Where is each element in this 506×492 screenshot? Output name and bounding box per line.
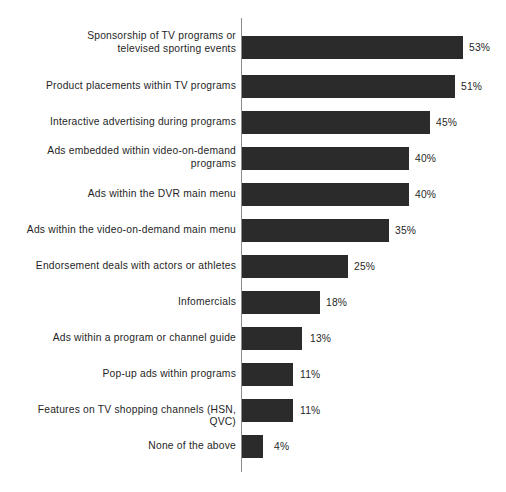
category-label: Ads within the video-on-demand main menu <box>11 224 236 236</box>
value-label: 45% <box>436 111 457 134</box>
category-label: Interactive advertising during programs <box>11 116 236 128</box>
category-label: Ads embedded within video-on-demand prog… <box>11 145 236 170</box>
bar-row: Infomercials 18% <box>0 291 506 327</box>
value-label: 11% <box>300 363 320 386</box>
bar[interactable] <box>242 435 263 458</box>
category-label: Ads within the DVR main menu <box>11 188 236 200</box>
value-label: 53% <box>469 36 490 59</box>
category-label: Sponsorship of TV programs or televised … <box>11 30 236 55</box>
bar[interactable] <box>242 36 463 59</box>
bar-row: None of the above 4% <box>0 435 506 471</box>
bar[interactable] <box>242 219 389 242</box>
category-label: Features on TV shopping channels (HSN, Q… <box>11 404 236 429</box>
value-label: 11% <box>300 399 320 422</box>
bar[interactable] <box>242 255 348 278</box>
value-label: 40% <box>415 183 436 206</box>
bar[interactable] <box>242 399 293 422</box>
bar-row: Ads within the video-on-demand main menu… <box>0 219 506 255</box>
value-label: 40% <box>415 147 436 170</box>
plot-area: Sponsorship of TV programs or televised … <box>0 0 506 492</box>
bar[interactable] <box>242 75 455 98</box>
bar[interactable] <box>242 111 430 134</box>
category-label: None of the above <box>11 440 236 452</box>
bar-row: Ads within the DVR main menu 40% <box>0 183 506 219</box>
value-label: 25% <box>354 255 375 278</box>
value-label: 13% <box>310 327 331 350</box>
bar-row: Sponsorship of TV programs or televised … <box>0 30 506 66</box>
bar[interactable] <box>242 327 302 350</box>
bar-row: Endorsement deals with actors or athlete… <box>0 255 506 291</box>
value-label: 18% <box>326 291 347 314</box>
bar[interactable] <box>242 183 409 206</box>
bar[interactable] <box>242 147 409 170</box>
bar-row: Pop-up ads within programs 11% <box>0 363 506 399</box>
bar[interactable] <box>242 363 293 386</box>
bar-row: Features on TV shopping channels (HSN, Q… <box>0 399 506 435</box>
horizontal-bar-chart: Sponsorship of TV programs or televised … <box>0 0 506 492</box>
bar-row: Product placements within TV programs 51… <box>0 75 506 111</box>
category-label: Pop-up ads within programs <box>11 368 236 380</box>
value-label: 51% <box>461 75 482 98</box>
category-label: Infomercials <box>11 296 236 308</box>
category-label: Endorsement deals with actors or athlete… <box>11 260 236 272</box>
bar-row: Ads within a program or channel guide 13… <box>0 327 506 363</box>
bar[interactable] <box>242 291 320 314</box>
value-label: 4% <box>274 435 289 458</box>
bar-row: Ads embedded within video-on-demand prog… <box>0 141 506 177</box>
category-label: Product placements within TV programs <box>11 80 236 92</box>
value-label: 35% <box>395 219 416 242</box>
category-label: Ads within a program or channel guide <box>11 332 236 344</box>
